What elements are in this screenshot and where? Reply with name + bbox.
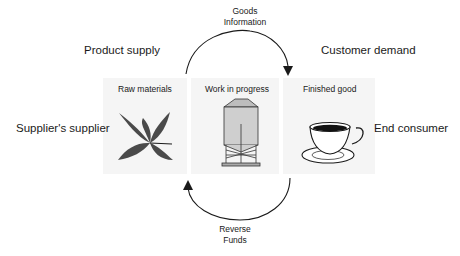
leaf-icon xyxy=(118,112,173,160)
forward-flow-arrow xyxy=(186,30,293,76)
forward-flow-label: Goods Information xyxy=(212,6,278,27)
label-suppliers-supplier: Supplier's supplier xyxy=(16,122,110,134)
reverse-flow-funds: Funds xyxy=(205,235,265,246)
reverse-flow-reverse: Reverse xyxy=(205,224,265,235)
label-product-supply: Product supply xyxy=(84,44,160,56)
label-customer-demand: Customer demand xyxy=(321,44,416,56)
silo-icon xyxy=(222,99,260,166)
reverse-flow-label: Reverse Funds xyxy=(205,224,265,245)
forward-flow-information: Information xyxy=(212,17,278,28)
coffee-cup-icon xyxy=(302,123,363,164)
stage-title-finished-good: Finished good xyxy=(303,84,356,94)
label-end-consumer: End consumer xyxy=(374,122,448,134)
stage-title-raw-materials: Raw materials xyxy=(118,84,172,94)
forward-flow-goods: Goods xyxy=(212,6,278,17)
reverse-flow-arrow xyxy=(183,178,290,220)
stage-title-work-in-progress: Work in progress xyxy=(205,84,269,94)
